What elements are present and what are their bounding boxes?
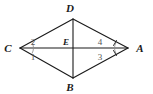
- vertex-label-E: E: [62, 37, 69, 47]
- geometry-figure: C D A B E 2 1 4 3: [0, 0, 153, 94]
- angle-number-3: 3: [98, 52, 103, 62]
- angle-number-4: 4: [98, 37, 103, 47]
- angle-number-2: 2: [31, 37, 36, 47]
- geometry-diagram: C D A B E 2 1 4 3: [0, 0, 153, 94]
- angle-number-1: 1: [31, 52, 36, 62]
- vertex-label-C: C: [4, 42, 12, 54]
- segment-BC: [20, 48, 73, 78]
- vertex-label-B: B: [65, 81, 73, 93]
- vertex-label-D: D: [65, 2, 74, 14]
- vertex-label-A: A: [135, 42, 143, 54]
